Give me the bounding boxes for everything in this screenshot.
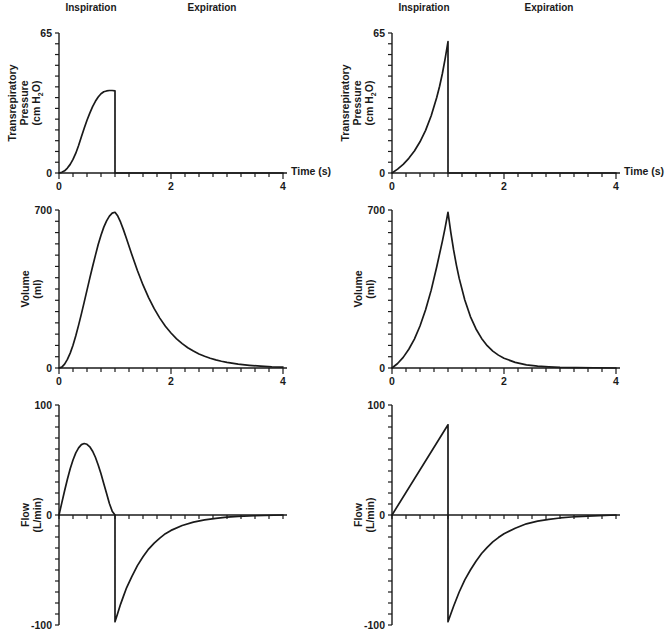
pressure-axis-unit: (cm H2O) [30, 64, 42, 141]
pressure-axis-label-left: Transrepiratory Pressure (cm H2O) [6, 64, 42, 141]
volume-axis-line1: Volume [19, 270, 31, 307]
y-tick-label: 0 [46, 362, 52, 374]
x-tick-label: 0 [389, 375, 395, 387]
label-inspiration-right: Inspiration [398, 2, 449, 13]
x-axis-title: Time (s) [624, 165, 664, 177]
y-tick-label: 0 [46, 167, 52, 179]
flow-axis-label-right: Flow (L/min) [352, 498, 376, 533]
flow-axis-line2: (L/min) [364, 498, 376, 533]
pressure-axis-line2: Pressure [351, 64, 363, 141]
figure-root: 650024Time (s)650024Time (s)700002470000… [0, 0, 665, 644]
x-tick-label: 2 [168, 375, 174, 387]
pressure-axis-line2: Pressure [18, 64, 30, 141]
x-tick-label: 0 [56, 375, 62, 387]
chart-pressure-right: 650024Time (s) [373, 27, 664, 193]
volume-curve [392, 212, 616, 368]
label-expiration-left: Expiration [188, 2, 237, 13]
y-tick-label: -100 [31, 619, 52, 631]
pressure-axis-label-right: Transrepiratory Pressure (cm H2O) [339, 64, 375, 141]
pressure-axis-line1: Transrepiratory [339, 64, 351, 141]
transrespiratory-pressure-curve [392, 42, 616, 173]
x-axis-title: Time (s) [291, 165, 331, 177]
x-tick-label: 2 [168, 180, 174, 192]
volume-axis-label-left: Volume (ml) [19, 270, 43, 307]
volume-curve [59, 212, 283, 368]
chart-volume-right: 7000024 [367, 204, 620, 388]
x-tick-label: 4 [280, 180, 286, 192]
y-tick-label: 700 [367, 204, 385, 216]
y-tick-label: 65 [40, 27, 52, 39]
x-tick-label: 2 [501, 180, 507, 192]
flow-axis-line1: Flow [352, 498, 364, 533]
y-tick-label: 0 [379, 362, 385, 374]
y-tick-label: 65 [373, 27, 385, 39]
x-tick-label: 4 [613, 180, 619, 192]
label-expiration-right: Expiration [525, 2, 574, 13]
y-tick-label: 700 [34, 204, 52, 216]
x-tick-label: 2 [501, 375, 507, 387]
y-tick-label: 0 [379, 167, 385, 179]
volume-axis-line2: (ml) [364, 270, 376, 307]
x-tick-label: 4 [613, 375, 619, 387]
chart-pressure-left: 650024Time (s) [40, 27, 331, 193]
transrespiratory-pressure-curve [59, 91, 283, 173]
volume-axis-label-right: Volume (ml) [352, 270, 376, 307]
label-inspiration-left: Inspiration [65, 2, 116, 13]
y-tick-label: 100 [34, 399, 52, 411]
flow-axis-line2: (L/min) [31, 498, 43, 533]
x-tick-label: 4 [280, 375, 286, 387]
x-tick-label: 0 [56, 180, 62, 192]
x-tick-label: 0 [389, 180, 395, 192]
flow-curve [59, 444, 283, 622]
volume-axis-line2: (ml) [31, 270, 43, 307]
y-tick-label: 100 [367, 399, 385, 411]
y-tick-label: -100 [364, 619, 385, 631]
flow-curve [392, 425, 616, 622]
y-tick-label: 0 [46, 509, 52, 521]
flow-axis-line1: Flow [19, 498, 31, 533]
y-tick-label: 0 [379, 509, 385, 521]
pressure-axis-line1: Transrepiratory [6, 64, 18, 141]
figure-canvas: 650024Time (s)650024Time (s)700002470000… [0, 0, 665, 644]
flow-axis-label-left: Flow (L/min) [19, 498, 43, 533]
chart-flow-right: 1000-100 [364, 399, 620, 631]
chart-flow-left: 1000-100 [31, 399, 287, 631]
pressure-axis-unit: (cm H2O) [363, 64, 375, 141]
chart-volume-left: 7000024 [34, 204, 287, 388]
volume-axis-line1: Volume [352, 270, 364, 307]
